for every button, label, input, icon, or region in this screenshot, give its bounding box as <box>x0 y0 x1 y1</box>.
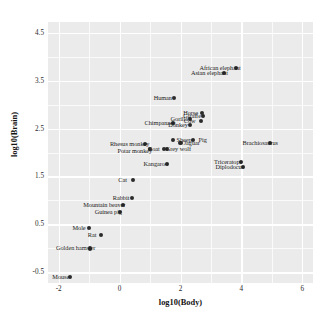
x-tick-label: 4 <box>240 285 244 293</box>
data-point-label: Grey wolf <box>166 146 191 152</box>
data-point-label: African elephant <box>199 65 240 71</box>
grid-major-vertical <box>241 22 242 283</box>
grid-major-horizontal <box>48 33 313 34</box>
data-point <box>131 178 135 182</box>
data-point-label: Kangaroo <box>144 161 168 167</box>
x-tick-label: 6 <box>301 285 305 293</box>
data-point <box>172 96 176 100</box>
data-point-label: Rat <box>88 232 97 238</box>
grid-major-vertical <box>302 22 303 283</box>
y-tick-label: 2.5 <box>35 125 44 133</box>
data-point <box>199 119 203 123</box>
data-point-label: Human <box>154 95 172 101</box>
data-point-label: Chimpanzee <box>145 120 176 126</box>
data-point-label: Pig <box>199 137 207 143</box>
x-tick-label: -2 <box>56 285 62 293</box>
grid-major-horizontal <box>48 176 313 177</box>
x-axis-tick-labels: -20246 <box>48 285 313 297</box>
y-tick-label: 1.5 <box>35 172 44 180</box>
grid-major-horizontal <box>48 272 313 273</box>
data-point-label: Triceratops <box>214 159 242 165</box>
y-tick-label: -0.5 <box>33 268 44 276</box>
data-point-label: Jaguar <box>184 140 200 146</box>
y-tick-label: 3.5 <box>35 77 44 85</box>
data-point <box>99 233 103 237</box>
data-point-label: Mouse <box>52 274 69 280</box>
data-point-label: Cat <box>118 177 127 183</box>
y-axis-title: log10(Brain) <box>10 75 19 195</box>
grid-major-vertical <box>181 22 182 283</box>
data-point-label: Brachiosaurus <box>243 140 278 146</box>
data-point <box>87 226 91 230</box>
y-tick-label: 4.5 <box>35 29 44 37</box>
data-point-label: Guinea pig <box>95 209 122 215</box>
data-point <box>171 138 175 142</box>
y-tick-label: 0.5 <box>35 220 44 228</box>
data-point-label: Golden hamster <box>56 245 95 251</box>
data-point <box>130 196 134 200</box>
data-point-label: Mole <box>73 225 86 231</box>
grid-major-horizontal <box>48 129 313 130</box>
x-tick-label: 2 <box>179 285 183 293</box>
x-axis-title: log10(Body) <box>48 298 313 307</box>
scatter-plot-figure: Mountain beaverCowGrey wolfGoatGuinea pi… <box>0 0 323 329</box>
plot-panel: Mountain beaverCowGrey wolfGoatGuinea pi… <box>48 22 313 283</box>
data-point-label: Potar monkey <box>118 147 153 153</box>
grid-major-horizontal <box>48 81 313 82</box>
y-axis-tick-labels: -0.50.51.52.53.54.5 <box>26 22 44 283</box>
data-point <box>201 114 205 118</box>
data-point-label: Rhesus monkey <box>110 141 149 147</box>
data-point-label: Rabbit <box>113 195 130 201</box>
x-tick-label: 0 <box>118 285 122 293</box>
